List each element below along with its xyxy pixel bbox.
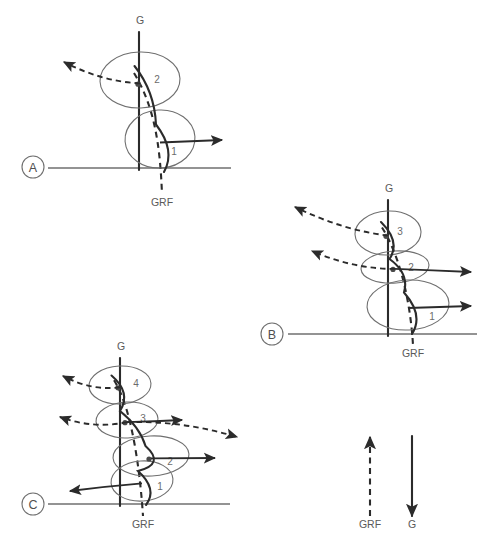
legend-label-grf: GRF [359,518,381,530]
gravity-axis-label-C: G [117,340,125,352]
panels-layer: AGGRF12BGGRF123CGGRF1234 [22,14,477,530]
gravity-arrow-B-4 [408,306,471,308]
gravity-arrow-C-4 [127,420,182,422]
joint-dot-C-2 [146,456,151,461]
panel-C: CGGRF1234 [22,340,237,530]
panel-label-B: B [268,328,276,342]
grf-arrow-C-2 [60,417,127,425]
panel-label-C: C [28,498,37,512]
gravity-arrow-C-6 [70,483,142,491]
gravity-axis-label-A: G [136,14,144,26]
legend-label-gravity: G [408,518,416,530]
biomechanics-diagram: AGGRF12BGGRF123CGGRF1234 GRFG [0,0,497,556]
segment-label-C-4: 4 [133,378,139,389]
legend-item-grf: GRF [359,437,381,530]
panel-A: AGGRF12 [22,14,231,208]
legend-layer: GRFG [359,436,416,530]
segment-label-B-1: 1 [429,311,435,322]
segment-label-B-2: 2 [408,262,414,273]
figure-root: AGGRF12BGGRF123CGGRF1234 GRFG [0,0,497,556]
grf-label-B: GRF [402,347,424,359]
segment-label-B-3: 3 [397,226,403,237]
grf-vector-C [114,380,143,516]
segment-ellipse-C-3 [95,400,159,439]
grf-arrow-B-2 [312,251,395,269]
grf-arrow-B-1 [295,207,388,236]
gravity-arrow-B-3 [395,269,471,272]
gravity-arrow-A-2 [160,140,222,142]
segment-label-A-1: 1 [171,146,177,157]
legend-item-gravity: G [408,436,416,530]
segment-ellipse-B-1 [366,278,451,332]
segment-label-C-1: 1 [157,481,163,492]
segment-ellipse-C-2 [112,434,190,478]
panel-B: BGGRF123 [261,182,477,359]
panel-label-A: A [29,161,38,175]
grf-label-A: GRF [151,196,173,208]
segment-label-A-2: 2 [154,74,160,85]
grf-label-C: GRF [132,518,154,530]
gravity-axis-label-B: G [385,182,393,194]
segment-ellipse-A-1 [123,108,197,171]
